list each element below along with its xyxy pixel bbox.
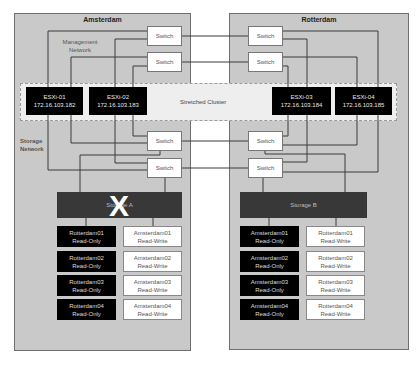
amsterdam-storage-switch-2[interactable]: Switch xyxy=(147,158,182,178)
datastore[interactable]: Rotterdam02 Read-Only xyxy=(57,251,116,272)
esxi-host-01[interactable]: ESXi-01 172.16.103.182 xyxy=(26,87,83,115)
datastore[interactable]: Rotterdam01 Read-Write xyxy=(306,226,365,247)
datastore[interactable]: Rotterdam02 Read-Write xyxy=(306,251,365,272)
rotterdam-storage-switch-1[interactable]: Switch xyxy=(248,131,283,151)
storage-b[interactable]: Storage B xyxy=(240,192,367,218)
datastore[interactable]: Rotterdam04 Read-Only xyxy=(57,299,116,320)
rotterdam-mgmt-switch-1[interactable]: Switch xyxy=(248,26,283,46)
datastore[interactable]: Amsterdam04 Read-Write xyxy=(123,299,182,320)
esxi-host-03[interactable]: ESXi-03 172.16.103.184 xyxy=(272,87,331,115)
datastore[interactable]: Amsterdam02 Read-Only xyxy=(240,251,299,272)
amsterdam-storage-switch-1[interactable]: Switch xyxy=(147,131,182,151)
datastore[interactable]: Rotterdam01 Read-Only xyxy=(57,226,116,247)
datastore[interactable]: Amsterdam02 Read-Write xyxy=(123,251,182,272)
datastore[interactable]: Amsterdam03 Read-Only xyxy=(240,275,299,296)
failure-x-icon: X xyxy=(109,191,129,221)
datastore[interactable]: Amsterdam04 Read-Only xyxy=(240,299,299,320)
esxi-host-04[interactable]: ESXi-04 172.16.103.185 xyxy=(335,87,392,115)
datastore[interactable]: Rotterdam03 Read-Write xyxy=(306,275,365,296)
datastore[interactable]: Rotterdam04 Read-Write xyxy=(306,299,365,320)
datastore[interactable]: Amsterdam03 Read-Write xyxy=(123,275,182,296)
rotterdam-storage-switch-2[interactable]: Switch xyxy=(248,158,283,178)
esxi-host-02[interactable]: ESXi-02 172.16.103.183 xyxy=(89,87,147,115)
rotterdam-mgmt-switch-2[interactable]: Switch xyxy=(248,52,283,72)
datastore[interactable]: Amsterdam01 Read-Write xyxy=(123,226,182,247)
amsterdam-mgmt-switch-2[interactable]: Switch xyxy=(147,52,182,72)
datastore[interactable]: Rotterdam03 Read-Only xyxy=(57,275,116,296)
network-links xyxy=(0,0,418,379)
amsterdam-mgmt-switch-1[interactable]: Switch xyxy=(147,26,182,46)
datastore[interactable]: Amsterdam01 Read-Only xyxy=(240,226,299,247)
